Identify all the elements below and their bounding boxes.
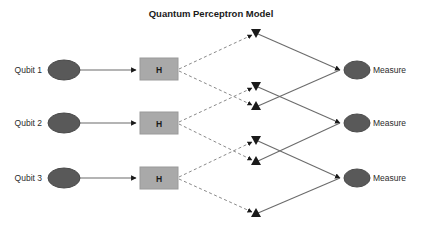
gate-hadamard-3-label: H — [156, 174, 162, 184]
output-label-measure-1: Measure — [373, 65, 406, 75]
hidden-node-4-arrow-down-icon[interactable] — [251, 136, 261, 145]
input-node-qubit-1[interactable] — [48, 60, 80, 80]
diagram-canvas: Quantum Perceptron Model Qubit 1 Qubit 2… — [0, 0, 423, 230]
output-node-measure-1[interactable] — [344, 61, 370, 79]
edge-gate1-to-hidden1 — [179, 35, 252, 69]
edge-gate2-to-hidden2 — [179, 88, 252, 122]
output-label-measure-3: Measure — [373, 173, 406, 183]
input-label-qubit-1: Qubit 1 — [15, 65, 43, 75]
edge-hidden1-to-measure1 — [258, 34, 340, 70]
quantum-circuit-diagram: Quantum Perceptron Model Qubit 1 Qubit 2… — [0, 0, 423, 230]
input-label-qubit-3: Qubit 3 — [15, 173, 43, 183]
edge-hidden6-to-measure3 — [258, 178, 340, 213]
output-node-measure-3[interactable] — [344, 169, 370, 187]
page-title: Quantum Perceptron Model — [149, 8, 274, 19]
output-label-measure-2: Measure — [373, 118, 406, 128]
edge-hidden4-to-measure3 — [258, 141, 340, 178]
edge-hidden3-to-measure1 — [258, 70, 340, 106]
hidden-node-2-arrow-down-icon[interactable] — [251, 82, 261, 91]
edge-hidden2-to-measure2 — [258, 87, 340, 123]
edge-gate3-to-hidden4 — [179, 142, 252, 177]
output-node-measure-2[interactable] — [344, 114, 370, 132]
gate-hadamard-1-label: H — [156, 65, 162, 75]
input-node-qubit-2[interactable] — [48, 113, 80, 133]
edge-hidden5-to-measure2 — [258, 123, 340, 161]
hidden-node-1-arrow-down-icon[interactable] — [251, 29, 261, 38]
edge-gate2-to-hidden5 — [179, 124, 252, 160]
input-label-qubit-2: Qubit 2 — [15, 118, 43, 128]
edge-gate3-to-hidden6 — [179, 179, 252, 212]
edge-gate1-to-hidden3 — [179, 71, 252, 105]
input-node-qubit-3[interactable] — [48, 168, 80, 188]
gate-hadamard-2-label: H — [156, 119, 162, 129]
